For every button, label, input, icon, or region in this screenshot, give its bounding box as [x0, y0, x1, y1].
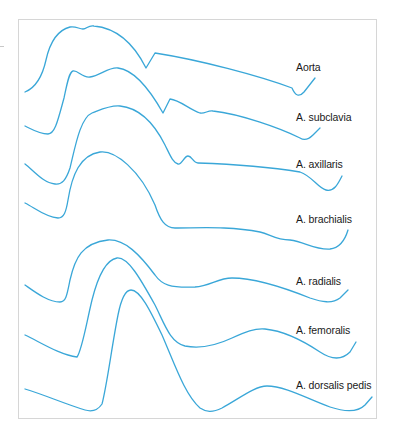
waveform-dorsalis-pedis — [25, 290, 372, 411]
waveform-axillaris — [25, 106, 342, 190]
waveform-radialis — [25, 240, 348, 302]
label-brachialis: A. brachialis — [296, 213, 352, 225]
label-aorta: Aorta — [296, 61, 321, 73]
label-subclavia: A. subclavia — [296, 111, 351, 123]
label-femoralis: A. femoralis — [296, 324, 350, 336]
label-axillaris: A. axillaris — [296, 158, 343, 170]
label-dorsalis-pedis: A. dorsalis pedis — [296, 379, 371, 391]
waveform-subclavia — [25, 68, 320, 140]
waveform-aorta — [25, 26, 315, 95]
label-radialis: A. radialis — [296, 275, 341, 287]
waveform-femoralis — [25, 258, 356, 358]
